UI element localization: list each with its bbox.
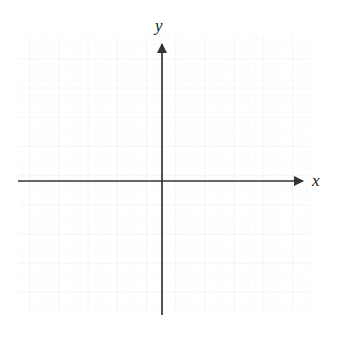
x-axis-label: x xyxy=(312,172,320,189)
grid-and-axes xyxy=(0,0,340,339)
grid-field xyxy=(18,36,310,312)
coordinate-plane: y x xyxy=(0,0,340,339)
y-axis-label: y xyxy=(155,17,163,34)
